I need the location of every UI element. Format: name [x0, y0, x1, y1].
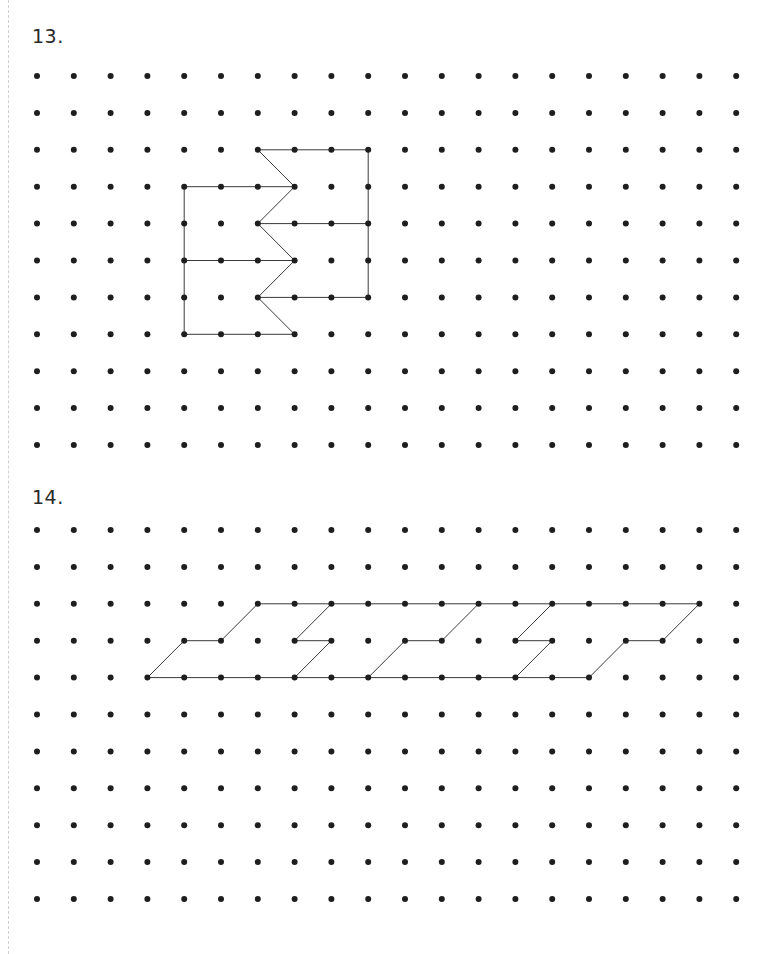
grid-dot — [34, 638, 40, 644]
grid-dot — [439, 601, 445, 607]
grid-dot — [144, 675, 150, 681]
grid-dot — [255, 896, 261, 902]
grid-dot — [144, 564, 150, 570]
grid-dot — [402, 675, 408, 681]
grid-dot — [549, 859, 555, 865]
grid-dot — [439, 785, 445, 791]
grid-dot — [181, 748, 187, 754]
grid-dot — [144, 822, 150, 828]
grid-dot — [402, 859, 408, 865]
grid-dot — [255, 638, 261, 644]
grid-dot — [71, 601, 77, 607]
grid-dot — [108, 601, 114, 607]
grid-dot — [34, 675, 40, 681]
grid-dot — [328, 638, 334, 644]
grid-dot — [512, 638, 518, 644]
grid-dot — [108, 527, 114, 533]
grid-dot — [549, 785, 555, 791]
grid-dot — [549, 564, 555, 570]
grid-dot — [512, 564, 518, 570]
grid-dot — [549, 601, 555, 607]
grid-dot — [623, 675, 629, 681]
grid-dot — [328, 822, 334, 828]
grid-dot — [476, 859, 482, 865]
grid-dot — [733, 896, 739, 902]
grid-dot — [292, 675, 298, 681]
grid-dot — [292, 859, 298, 865]
grid-dot — [292, 527, 298, 533]
grid-dot — [623, 896, 629, 902]
grid-dot — [660, 785, 666, 791]
grid-dot — [34, 859, 40, 865]
grid-dot — [586, 675, 592, 681]
grid-dot — [365, 564, 371, 570]
grid-dot — [365, 785, 371, 791]
grid-dot — [328, 785, 334, 791]
grid-dot — [144, 527, 150, 533]
grid-dot — [34, 785, 40, 791]
grid-dot — [218, 564, 224, 570]
grid-dot — [696, 859, 702, 865]
grid-dot — [255, 712, 261, 718]
grid-dot — [365, 712, 371, 718]
grid-dot — [696, 896, 702, 902]
grid-dot — [292, 564, 298, 570]
grid-dot — [365, 638, 371, 644]
grid-dot — [34, 712, 40, 718]
grid-dot — [218, 638, 224, 644]
problem-14-dot-grid — [0, 0, 776, 954]
grid-dot — [218, 822, 224, 828]
grid-dot — [402, 785, 408, 791]
grid-dot — [181, 896, 187, 902]
grid-dot — [476, 675, 482, 681]
grid-dot — [439, 748, 445, 754]
grid-dot — [108, 822, 114, 828]
grid-dot — [181, 675, 187, 681]
grid-dot — [476, 748, 482, 754]
grid-dot — [181, 822, 187, 828]
grid-dot — [402, 896, 408, 902]
grid-dot — [181, 712, 187, 718]
grid-dot — [71, 564, 77, 570]
grid-dot — [365, 675, 371, 681]
grid-dot — [144, 748, 150, 754]
grid-dot — [549, 748, 555, 754]
figure-outline — [147, 604, 699, 678]
figure-segment — [515, 604, 552, 641]
grid-dot — [660, 822, 666, 828]
grid-dot — [108, 896, 114, 902]
grid-dot — [512, 785, 518, 791]
grid-dot — [144, 896, 150, 902]
grid-dot — [402, 564, 408, 570]
grid-dot — [365, 527, 371, 533]
grid-dot — [660, 601, 666, 607]
grid-dot — [255, 748, 261, 754]
grid-dot — [439, 564, 445, 570]
grid-dot — [292, 601, 298, 607]
grid-dot — [71, 675, 77, 681]
grid-dot — [255, 564, 261, 570]
grid-dot — [733, 601, 739, 607]
grid-dot — [71, 712, 77, 718]
grid-dot — [71, 638, 77, 644]
grid-dot — [439, 638, 445, 644]
grid-dot — [255, 822, 261, 828]
grid-dot — [34, 601, 40, 607]
grid-dot — [218, 859, 224, 865]
grid-dot — [476, 601, 482, 607]
grid-dot — [512, 748, 518, 754]
grid-dot — [218, 712, 224, 718]
grid-dot — [586, 712, 592, 718]
grid-dot — [733, 675, 739, 681]
grid-dot — [476, 638, 482, 644]
grid-dot — [512, 675, 518, 681]
grid-dot — [586, 638, 592, 644]
grid-dot — [144, 601, 150, 607]
grid-dot — [476, 785, 482, 791]
grid-dot — [181, 601, 187, 607]
grid-dot — [660, 527, 666, 533]
grid-dot — [512, 896, 518, 902]
grid-dot — [439, 712, 445, 718]
grid-dot — [660, 675, 666, 681]
grid-dot — [586, 859, 592, 865]
